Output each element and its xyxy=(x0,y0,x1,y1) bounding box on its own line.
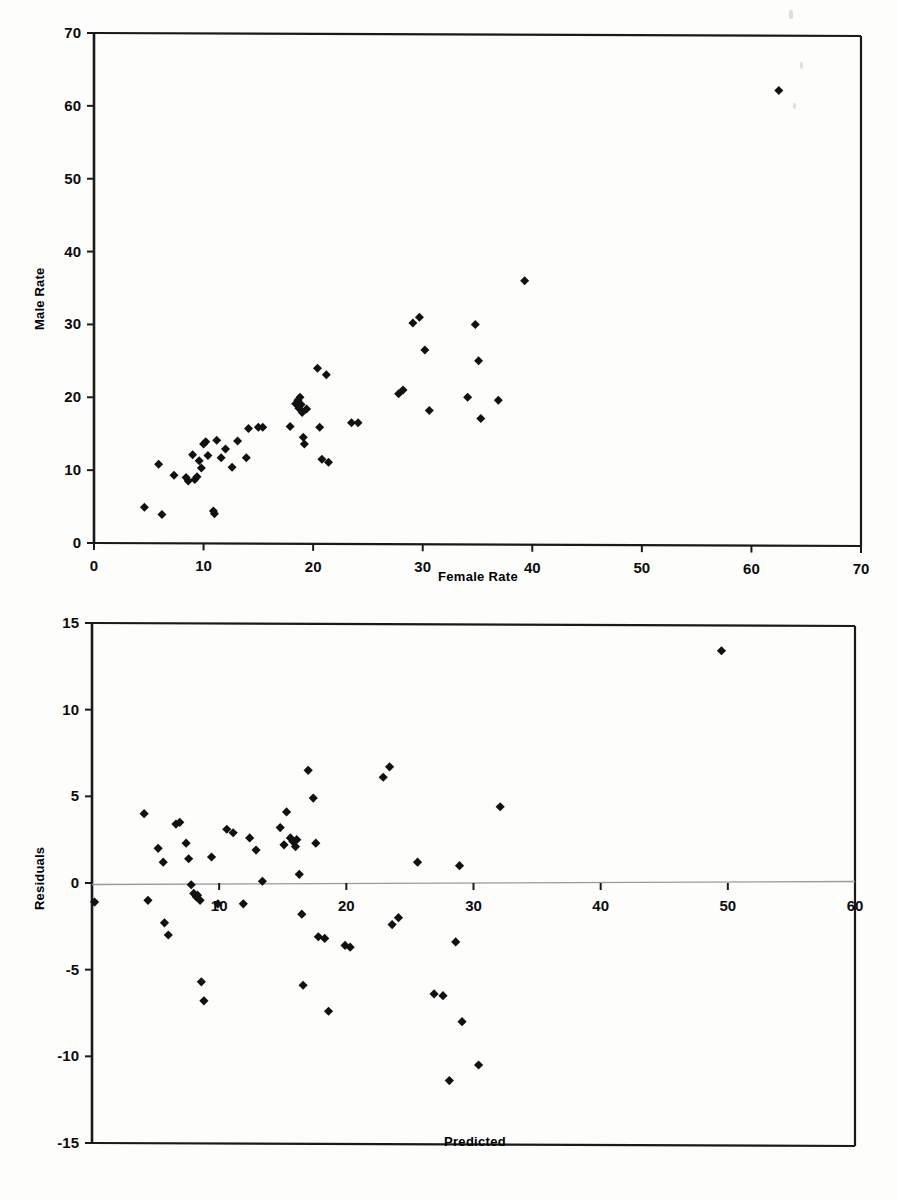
data-point-marker xyxy=(394,913,403,922)
data-point-marker xyxy=(154,844,163,853)
y-tick-label: -15 xyxy=(57,1134,79,1151)
data-point-marker xyxy=(320,934,329,943)
y-tick-label: 40 xyxy=(64,243,81,260)
x-tick-label: 20 xyxy=(338,897,355,914)
data-point-marker xyxy=(415,313,424,322)
data-point-marker xyxy=(197,463,206,472)
data-point-marker xyxy=(160,918,169,927)
data-point-marker xyxy=(212,436,221,445)
x-tick-label: 60 xyxy=(847,897,864,914)
data-point-marker xyxy=(451,937,460,946)
data-point-marker xyxy=(313,364,322,373)
data-point-marker xyxy=(304,766,313,775)
data-point-marker xyxy=(295,870,304,879)
plot-border-top xyxy=(92,623,855,626)
data-point-marker xyxy=(299,433,308,442)
data-point-marker xyxy=(140,809,149,818)
data-point-marker xyxy=(286,422,295,431)
data-point-marker xyxy=(420,345,429,354)
data-point-marker xyxy=(279,840,288,849)
data-point-marker xyxy=(455,861,464,870)
data-point-marker xyxy=(188,450,197,459)
data-point-marker xyxy=(184,854,193,863)
data-point-marker xyxy=(297,910,306,919)
y-tick-label: -10 xyxy=(57,1047,79,1064)
data-point-marker xyxy=(197,977,206,986)
data-point-marker xyxy=(311,839,320,848)
data-point-marker xyxy=(309,793,318,802)
data-point-marker xyxy=(157,510,166,519)
data-point-marker xyxy=(233,437,242,446)
data-point-marker xyxy=(282,807,291,816)
data-point-marker xyxy=(221,445,230,454)
data-point-marker xyxy=(520,276,529,285)
plot-border-bottom xyxy=(94,543,861,546)
data-point-marker xyxy=(140,503,149,512)
data-point-marker xyxy=(169,471,178,480)
data-point-marker xyxy=(496,802,505,811)
data-point-marker xyxy=(245,833,254,842)
data-point-marker xyxy=(494,396,503,405)
data-point-marker xyxy=(463,393,472,402)
x-tick-label: 30 xyxy=(465,897,482,914)
data-point-marker xyxy=(457,1017,466,1026)
data-point-marker xyxy=(385,762,394,771)
data-point-marker xyxy=(717,646,726,655)
x-tick-label: 50 xyxy=(634,559,651,576)
data-point-marker xyxy=(315,423,324,432)
x-tick-label: 20 xyxy=(305,558,322,575)
data-point-marker xyxy=(445,1076,454,1085)
data-point-marker xyxy=(474,356,483,365)
x-tick-label: 70 xyxy=(853,560,870,577)
data-point-marker xyxy=(429,989,438,998)
chart1-canvas: 010203040506070010203040506070 xyxy=(0,0,898,600)
chart2-y-axis-title: Residuals xyxy=(32,847,47,910)
data-point-marker xyxy=(425,406,434,415)
data-point-marker xyxy=(199,996,208,1005)
data-point-series xyxy=(140,86,783,519)
data-point-marker xyxy=(207,852,216,861)
data-point-marker xyxy=(242,453,251,462)
data-point-marker xyxy=(774,86,783,95)
scan-artifact-speck xyxy=(793,103,796,109)
x-tick-label: 60 xyxy=(743,560,760,577)
chart2-x-axis-title: Predicted xyxy=(375,1134,575,1149)
y-tick-label: 10 xyxy=(62,701,79,718)
chart1-x-axis-title: Female Rate xyxy=(378,569,578,584)
data-point-marker xyxy=(413,858,422,867)
x-tick-label: 40 xyxy=(592,897,609,914)
y-tick-label: 50 xyxy=(64,170,81,187)
data-point-marker xyxy=(298,981,307,990)
data-point-marker xyxy=(154,460,163,469)
data-point-marker xyxy=(388,920,397,929)
data-point-marker xyxy=(182,839,191,848)
data-point-marker xyxy=(471,320,480,329)
data-point-marker xyxy=(164,930,173,939)
scan-artifact-speck xyxy=(789,10,793,19)
data-point-marker xyxy=(438,991,447,1000)
data-point-marker xyxy=(322,370,331,379)
y-tick-label: 20 xyxy=(64,388,81,405)
chart-male-vs-female-rate: 010203040506070010203040506070 Male Rate… xyxy=(0,0,898,600)
y-tick-label: 10 xyxy=(64,461,81,478)
data-point-marker xyxy=(228,463,237,472)
y-tick-label: 70 xyxy=(64,24,81,41)
data-point-marker xyxy=(474,1060,483,1069)
x-tick-label: 10 xyxy=(195,557,212,574)
y-tick-label: 0 xyxy=(73,534,81,551)
y-tick-label: 0 xyxy=(71,874,79,891)
y-tick-label: 15 xyxy=(62,614,79,631)
y-tick-label: 60 xyxy=(64,97,81,114)
x-tick-label: 0 xyxy=(90,557,98,574)
data-point-marker xyxy=(276,823,285,832)
x-tick-label: 50 xyxy=(719,897,736,914)
chart1-y-axis-title: Male Rate xyxy=(32,268,47,331)
data-point-marker xyxy=(203,451,212,460)
plot-border-top xyxy=(94,33,861,36)
data-point-marker xyxy=(251,845,260,854)
chart2-canvas: -15-10-5051015102030405060 xyxy=(0,600,898,1200)
y-tick-label: -5 xyxy=(66,961,79,978)
data-point-marker xyxy=(314,932,323,941)
data-point-marker xyxy=(476,414,485,423)
data-point-marker xyxy=(408,318,417,327)
